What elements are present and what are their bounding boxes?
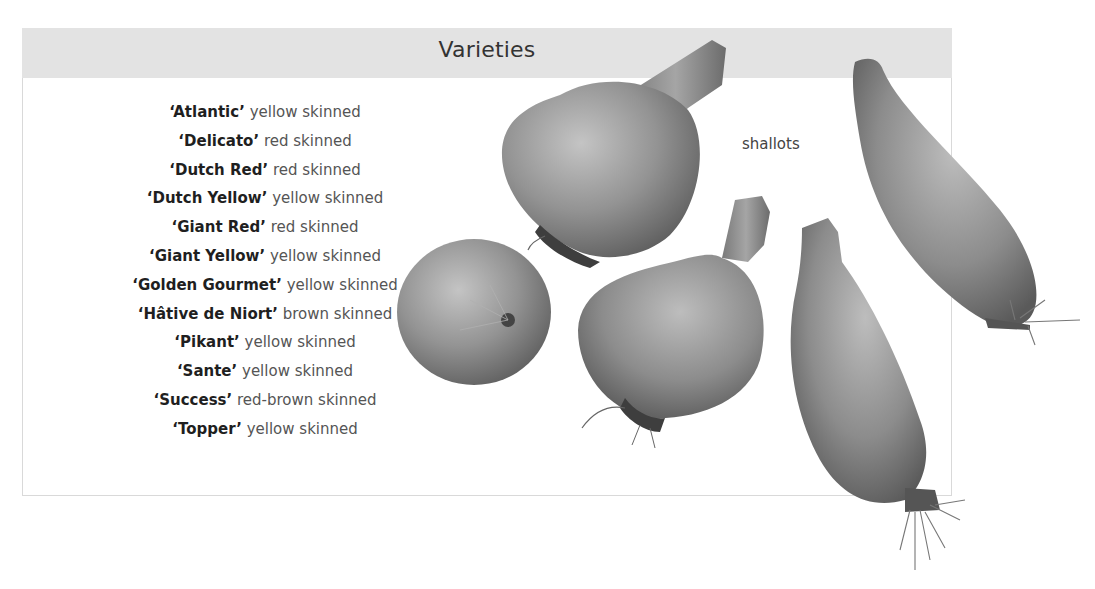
onion-round-left [397, 239, 551, 385]
onion-photo [0, 0, 1095, 589]
shallot-upper-right [853, 59, 1080, 345]
shallots-label: shallots [742, 135, 800, 153]
onion-large-top [502, 40, 726, 268]
